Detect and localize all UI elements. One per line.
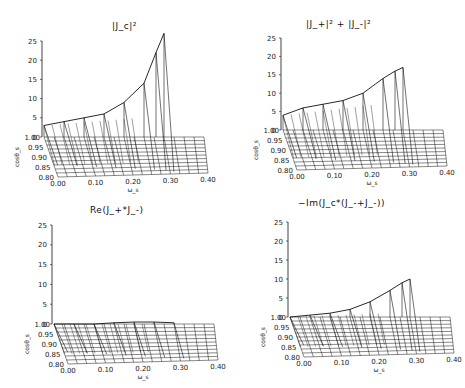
z-tick-label: 10 [38,281,47,289]
plot-re-jplus-jminus: 05101520250.000.100.200.300.400.800.850.… [0,194,232,388]
x-tick-label: 0.20 [125,178,141,186]
z-tick-label: 5 [272,108,276,116]
surface-plot: 05101520250.000.100.200.300.400.800.850.… [232,194,464,388]
z-tick-label: 20 [28,57,37,65]
y-tick-label: 1.00 [34,321,50,329]
x-tick-label: 0.40 [446,356,462,364]
plot-title: |J_c|² [112,21,137,31]
z-tick-label: 25 [38,222,47,230]
z-tick-label: 25 [267,35,276,43]
x-tick-label: 0.40 [210,363,226,371]
y-tick-label: 0.85 [281,344,297,352]
z-tick-label: 20 [274,238,283,246]
y-tick-label: 0.95 [38,331,54,339]
y-tick-label: 0.80 [38,174,54,182]
z-tick-label: 15 [274,257,283,265]
z-tick-label: 5 [33,114,37,122]
y-tick-label: 0.85 [274,157,290,165]
y-axis-label: cosθ_s [23,334,31,354]
z-tick-label: 20 [267,53,276,61]
z-tick-label: 10 [274,276,283,284]
x-tick-label: 0.30 [409,357,425,365]
x-tick-label: 0.40 [439,169,455,177]
y-tick-label: 0.80 [48,361,64,369]
x-tick-label: 0.10 [327,172,343,180]
x-tick-label: 0.10 [334,359,350,367]
z-tick-label: 10 [267,90,276,98]
y-tick-label: 0.90 [277,334,293,342]
y-tick-label: 0.85 [35,164,51,172]
x-tick-label: 0.30 [163,177,179,185]
x-tick-label: 0.20 [135,365,151,373]
plot-im-jc-j: 05101520250.000.100.200.300.400.800.850.… [232,194,464,388]
x-axis-label: ω_s [137,373,148,381]
z-tick-label: 25 [274,219,283,227]
y-tick-label: 1.00 [24,134,40,142]
x-tick-label: 0.30 [173,364,189,372]
z-tick-label: 15 [267,71,276,79]
x-axis-label: ω_s [366,179,377,187]
z-tick-label: 15 [28,76,37,84]
plot-title: |J_+|² + |J_-|² [306,19,371,29]
y-tick-label: 0.90 [270,147,286,155]
y-axis-label: cosθ_s [259,327,267,347]
z-tick-label: 10 [28,95,37,103]
y-tick-label: 0.90 [31,154,47,162]
y-tick-label: 0.95 [267,137,283,145]
y-tick-label: 0.90 [41,341,57,349]
y-axis-label: cosθ_s [252,140,260,160]
x-tick-label: 0.10 [98,366,114,374]
x-tick-label: 0.30 [402,170,418,178]
z-tick-label: 20 [38,241,47,249]
y-tick-label: 1.00 [270,314,286,322]
plot-jc-squared: 05101520250.000.100.200.300.400.800.850.… [0,0,232,194]
y-tick-label: 0.95 [274,324,290,332]
z-tick-label: 5 [279,295,283,303]
z-tick-label: 25 [28,38,37,46]
x-axis-label: ω_s [373,366,384,374]
z-tick-label: 15 [38,261,47,269]
y-tick-label: 0.80 [284,354,300,362]
x-tick-label: 0.20 [364,171,380,179]
y-tick-label: 1.00 [263,127,279,135]
plot-jplus-jminus-squared: 05101520250.000.100.200.300.400.800.850.… [232,0,464,194]
y-tick-label: 0.80 [277,167,293,175]
x-tick-label: 0.20 [371,358,387,366]
surface-plot: 05101520250.000.100.200.300.400.800.850.… [232,0,464,194]
y-tick-label: 0.95 [28,144,44,152]
y-axis-label: cosθ_s [13,147,21,167]
z-tick-label: 5 [43,301,47,309]
plot-title: Re(J_+*J_-) [90,205,144,215]
surface-plot: 05101520250.000.100.200.300.400.800.850.… [0,194,232,388]
x-axis-label: ω_s [127,186,138,194]
plot-title: −Im(J_c*(J_-+J_-)) [298,198,385,208]
x-tick-label: 0.40 [200,176,216,184]
y-tick-label: 0.85 [45,351,61,359]
x-tick-label: 0.10 [88,179,104,187]
